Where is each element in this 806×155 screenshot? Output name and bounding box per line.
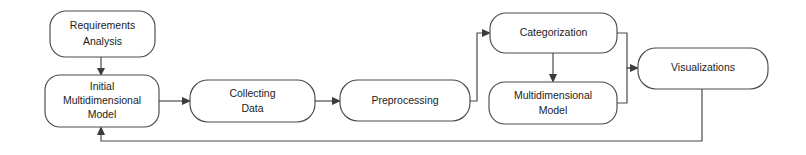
collecting-data-label-line-1: Collecting [229, 87, 275, 99]
node-requirements-analysis[interactable]: Requirements Analysis [50, 11, 155, 57]
preprocessing-label: Preprocessing [371, 94, 438, 106]
flowchart-canvas: Requirements Analysis Initial Multidimen… [0, 0, 806, 155]
multidimensional-model-label-line-2: Model [539, 104, 568, 116]
requirements-analysis-label-line-2: Analysis [83, 35, 122, 47]
node-categorization[interactable]: Categorization [490, 13, 617, 53]
initial-multidimensional-model-label-line-3: Model [88, 108, 117, 120]
edge-categorization-to-multidimensional-model [549, 53, 557, 83]
edge-categorization-to-visualizations [617, 33, 632, 68]
edge-requirements-to-initial-model [97, 57, 105, 76]
edge-multidimensional-model-to-visualizations [617, 64, 639, 103]
edge-collecting-data-to-preprocessing [315, 97, 341, 105]
node-multidimensional-model[interactable]: Multidimensional Model [489, 82, 617, 124]
node-collecting-data[interactable]: Collecting Data [190, 80, 315, 122]
initial-multidimensional-model-label-line-1: Initial [90, 80, 115, 92]
requirements-analysis-label-line-1: Requirements [70, 19, 135, 31]
visualizations-label: Visualizations [671, 61, 735, 73]
categorization-label: Categorization [520, 26, 588, 38]
collecting-data-label-line-2: Data [241, 102, 263, 114]
edge-preprocessing-to-categorization [470, 29, 491, 101]
edge-initial-model-to-collecting-data [159, 97, 191, 105]
process-flow-diagram: Requirements Analysis Initial Multidimen… [0, 0, 806, 155]
node-initial-multidimensional-model[interactable]: Initial Multidimensional Model [45, 75, 159, 127]
multidimensional-model-label-line-1: Multidimensional [514, 89, 592, 101]
initial-multidimensional-model-label-line-2: Multidimensional [63, 94, 141, 106]
node-preprocessing[interactable]: Preprocessing [340, 80, 470, 121]
node-visualizations[interactable]: Visualizations [638, 48, 768, 89]
